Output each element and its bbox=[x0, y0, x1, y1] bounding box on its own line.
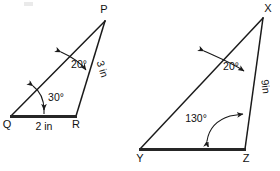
angle-label-q-30: 30° bbox=[48, 91, 64, 103]
side-label-pr-3in: 3 in bbox=[95, 59, 111, 79]
angle-arc-z bbox=[207, 114, 243, 141]
vertex-label-r: R bbox=[72, 118, 80, 130]
triangle-xyz-group: X Y Z 20° 130° 9in bbox=[136, 2, 272, 164]
figure-canvas: P Q R 20° 30° 2 in 3 in X Y Z bbox=[0, 0, 280, 171]
triangle-pqr-group: P Q R 20° 30° 2 in 3 in bbox=[3, 3, 111, 132]
segment-yx bbox=[140, 18, 263, 149]
side-label-xz-9in: 9in bbox=[259, 79, 273, 95]
side-label-qr-2in: 2 in bbox=[36, 120, 53, 132]
vertex-label-z: Z bbox=[243, 152, 250, 164]
vertex-label-q: Q bbox=[3, 118, 12, 130]
geometry-figure: P Q R 20° 30° 2 in 3 in X Y Z bbox=[0, 0, 280, 171]
vertex-label-y: Y bbox=[136, 152, 144, 164]
angle-label-x-20: 20° bbox=[223, 60, 239, 72]
vertex-label-x: X bbox=[264, 2, 272, 14]
angle-label-p-20: 20° bbox=[71, 58, 87, 70]
angle-arc-q bbox=[33, 86, 44, 110]
angle-label-z-130: 130° bbox=[185, 112, 207, 124]
vertex-label-p: P bbox=[100, 3, 107, 15]
